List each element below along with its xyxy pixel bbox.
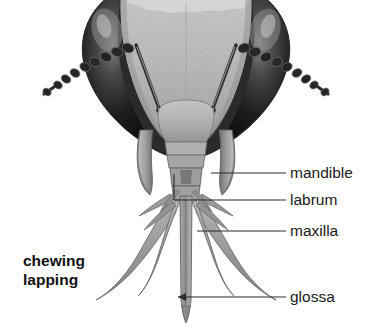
proboscis-segment-1: [165, 142, 207, 155]
label-labrum: labrum: [290, 191, 337, 208]
mode-label-line-1: chewing: [23, 252, 85, 269]
glossa: [180, 196, 192, 323]
label-maxilla: maxilla: [290, 222, 339, 239]
label-glossa: glossa: [290, 288, 335, 305]
mode-label-line-2: lapping: [23, 271, 78, 288]
label-mandible: mandible: [290, 164, 353, 181]
bee-head-diagram: mandible labrum maxilla glossa chewing l…: [0, 0, 390, 336]
proboscis-segment-2: [167, 155, 205, 168]
labrum-notch: [180, 170, 192, 184]
clypeus-lobe: [158, 100, 214, 142]
